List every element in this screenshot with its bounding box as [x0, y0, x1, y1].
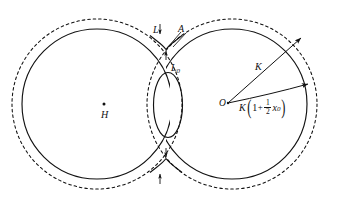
label-L: L: [153, 25, 159, 35]
formula-denominator: 2: [266, 108, 270, 116]
label-O: O: [219, 99, 226, 109]
cusp-bottom-right-curve: [166, 159, 182, 173]
formula-one: 1: [252, 103, 257, 113]
label-H: H: [101, 110, 108, 120]
label-L0-subscript: 0: [177, 67, 181, 75]
cusp-top-right-curve: [166, 36, 182, 50]
formula-variable-subscript: 0: [277, 106, 281, 113]
label-L0-base: L: [171, 62, 177, 73]
figure-canvas: [0, 0, 338, 210]
geometric-figure: L A L0 H O K K ( 1 + 1 2 x 0 ): [0, 0, 338, 210]
leader-line-A2: [173, 33, 186, 47]
label-radius-formula: K ( 1 + 1 2 x 0 ): [239, 99, 287, 116]
label-K: K: [255, 62, 262, 72]
label-A: A: [178, 24, 184, 34]
formula-close-paren: ): [282, 99, 286, 115]
formula-open-paren: (: [247, 99, 251, 115]
formula-numerator: 1: [266, 99, 270, 107]
formula-plus: +: [258, 103, 263, 112]
label-L0: L0: [171, 63, 180, 73]
formula-fraction: 1 2: [264, 99, 271, 116]
solid-circle-left: [22, 29, 172, 179]
radius-arrow-K: [228, 38, 301, 103]
point-H-dot: [103, 103, 106, 106]
dashed-circle-right: [147, 19, 317, 189]
cusp-bottom-left-curve: [150, 159, 166, 173]
formula-lead: K: [239, 103, 246, 113]
cusp-top-left-curve: [150, 36, 166, 50]
leader-line-A: [168, 32, 181, 47]
dashed-circle-left: [12, 19, 182, 189]
